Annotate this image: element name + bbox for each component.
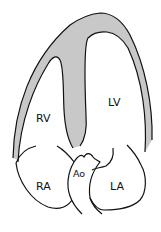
label-ao: Ao [73,168,85,179]
label-rv: RV [36,112,51,125]
mitral-leaflet-right [127,145,141,165]
tricuspid-leaflet-right [57,146,74,162]
label-ra: RA [36,180,51,193]
label-la: LA [110,180,124,193]
myocardium-wall [13,13,152,160]
heart-diagram: RV LV RA Ao LA [0,0,161,232]
label-lv: LV [108,96,121,109]
aorta-outline [68,154,102,214]
